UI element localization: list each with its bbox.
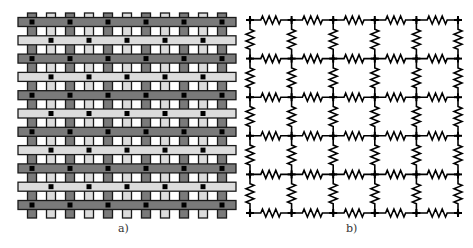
resistor-horizontal	[250, 132, 292, 140]
resistor-vertical	[329, 20, 337, 59]
resistor-horizontal	[292, 209, 334, 217]
resistor-horizontal	[333, 209, 375, 217]
resistor-horizontal	[416, 209, 458, 217]
resistor-horizontal	[250, 16, 292, 24]
resistor-horizontal	[416, 132, 458, 140]
resistor-horizontal	[250, 93, 292, 101]
resistor-horizontal	[416, 93, 458, 101]
network-node	[371, 209, 379, 217]
network-node	[412, 16, 420, 24]
resistor-vertical	[454, 20, 462, 59]
network-node	[412, 132, 420, 140]
network-node	[288, 93, 296, 101]
resistor-horizontal	[375, 55, 417, 63]
network-node	[288, 55, 296, 63]
resistor-horizontal	[333, 93, 375, 101]
network-node	[454, 55, 462, 63]
resistor-horizontal	[416, 170, 458, 178]
network-node	[371, 16, 379, 24]
resistor-vertical	[288, 59, 296, 98]
resistor-vertical	[371, 97, 379, 136]
network-node	[371, 55, 379, 63]
resistor-vertical	[371, 20, 379, 59]
network-node	[454, 209, 462, 217]
resistor-network-diagram	[0, 0, 473, 230]
resistor-horizontal	[375, 170, 417, 178]
network-node	[246, 93, 254, 101]
resistor-vertical	[329, 136, 337, 175]
network-node	[246, 16, 254, 24]
network-node	[412, 55, 420, 63]
resistor-horizontal	[375, 93, 417, 101]
network-node	[454, 93, 462, 101]
resistor-horizontal	[333, 132, 375, 140]
resistor-vertical	[412, 174, 420, 213]
resistor-vertical	[454, 97, 462, 136]
resistor-horizontal	[375, 209, 417, 217]
resistor-vertical	[246, 97, 254, 136]
resistor-vertical	[288, 136, 296, 175]
resistor-vertical	[371, 136, 379, 175]
network-node	[371, 93, 379, 101]
network-node	[246, 55, 254, 63]
resistor-horizontal	[416, 16, 458, 24]
resistor-vertical	[246, 20, 254, 59]
resistor-vertical	[412, 136, 420, 175]
resistor-horizontal	[375, 132, 417, 140]
resistor-vertical	[412, 20, 420, 59]
resistor-vertical	[288, 97, 296, 136]
network-node	[288, 132, 296, 140]
network-node	[288, 170, 296, 178]
panel-a-label: a)	[118, 222, 129, 235]
resistor-horizontal	[292, 55, 334, 63]
resistor-horizontal	[292, 16, 334, 24]
panel-b-label: b)	[346, 222, 357, 235]
resistor-horizontal	[292, 132, 334, 140]
resistor-vertical	[329, 59, 337, 98]
network-node	[454, 170, 462, 178]
network-node	[329, 132, 337, 140]
resistor-horizontal	[416, 55, 458, 63]
network-node	[329, 55, 337, 63]
resistor-vertical	[329, 174, 337, 213]
resistor-horizontal	[292, 170, 334, 178]
resistor-vertical	[454, 174, 462, 213]
network-node	[246, 209, 254, 217]
resistor-vertical	[246, 136, 254, 175]
resistor-vertical	[246, 59, 254, 98]
resistor-horizontal	[333, 16, 375, 24]
resistor-horizontal	[333, 55, 375, 63]
network-node	[329, 16, 337, 24]
network-node	[412, 170, 420, 178]
resistor-vertical	[412, 59, 420, 98]
resistor-horizontal	[250, 170, 292, 178]
resistor-vertical	[288, 20, 296, 59]
resistor-horizontal	[292, 93, 334, 101]
resistor-vertical	[371, 59, 379, 98]
resistor-vertical	[412, 97, 420, 136]
resistor-vertical	[246, 174, 254, 213]
network-node	[329, 170, 337, 178]
resistor-horizontal	[375, 16, 417, 24]
network-node	[454, 132, 462, 140]
network-node	[454, 16, 462, 24]
resistor-horizontal	[250, 209, 292, 217]
network-node	[246, 170, 254, 178]
resistor-horizontal	[333, 170, 375, 178]
resistor-vertical	[454, 136, 462, 175]
resistor-vertical	[371, 174, 379, 213]
resistor-vertical	[288, 174, 296, 213]
network-node	[246, 132, 254, 140]
network-node	[288, 209, 296, 217]
resistor-vertical	[329, 97, 337, 136]
network-node	[288, 16, 296, 24]
network-node	[412, 93, 420, 101]
network-node	[329, 93, 337, 101]
resistor-vertical	[454, 59, 462, 98]
network-node	[371, 170, 379, 178]
network-node	[412, 209, 420, 217]
network-node	[371, 132, 379, 140]
resistor-horizontal	[250, 55, 292, 63]
network-node	[329, 209, 337, 217]
